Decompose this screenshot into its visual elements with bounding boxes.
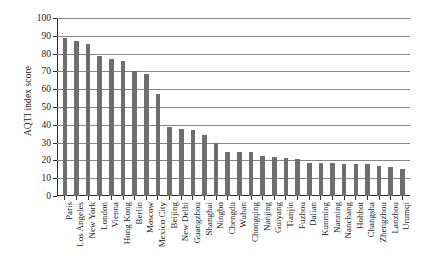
bar: [214, 143, 219, 196]
x-label-slot: Chongqing: [245, 202, 257, 276]
bar: [63, 38, 68, 196]
x-tick-mark: [379, 196, 380, 200]
x-label-slot: Mexico City: [152, 202, 164, 276]
bar-slot: [385, 18, 397, 196]
x-label-slot: Hong Kong: [117, 202, 129, 276]
x-tick-mark: [239, 196, 240, 200]
x-tick-mark: [297, 196, 298, 200]
bar: [109, 59, 114, 196]
bar-series: [57, 18, 410, 196]
x-tick-mark: [76, 196, 77, 200]
x-tick-slot: [397, 196, 409, 200]
x-tick-mark: [402, 196, 403, 200]
x-tick-slot: [269, 196, 281, 200]
bar-slot: [269, 18, 281, 196]
x-label-slot: Guangzhou: [187, 202, 199, 276]
x-tick-slot: [222, 196, 234, 200]
x-tick-mark: [99, 196, 100, 200]
x-label-slot: Kunming: [315, 202, 327, 276]
bar-slot: [210, 18, 222, 196]
x-label-slot: Moscow: [140, 202, 152, 276]
y-tick-label: 90: [42, 31, 52, 41]
x-tick-mark: [355, 196, 356, 200]
bar-slot: [222, 18, 234, 196]
bar-slot: [373, 18, 385, 196]
bar: [86, 44, 91, 196]
x-label-slot: Hohhot: [350, 202, 362, 276]
bar: [307, 163, 312, 196]
x-tick-slot: [140, 196, 152, 200]
x-label-slot: Fuzhou: [292, 202, 304, 276]
x-tick-mark: [157, 196, 158, 200]
bar: [342, 164, 347, 196]
x-tick-slot: [129, 196, 141, 200]
x-label-slot: Wuhan: [234, 202, 246, 276]
aqti-bar-chart: AQTI index score 0102030405060708090100 …: [0, 0, 428, 279]
bar-slot: [292, 18, 304, 196]
y-axis-title: AQTI index score: [23, 21, 33, 181]
bar: [179, 129, 184, 196]
x-tick-mark: [204, 196, 205, 200]
y-tick-label: 40: [42, 120, 52, 130]
x-tick-slot: [303, 196, 315, 200]
bar: [191, 130, 196, 196]
x-tick-slot: [327, 196, 339, 200]
x-label-slot: Vienna: [106, 202, 118, 276]
x-label-slot: Lanzhou: [385, 202, 397, 276]
x-label-slot: Tianjin: [280, 202, 292, 276]
x-tick-slot: [94, 196, 106, 200]
x-tick-slot: [210, 196, 222, 200]
x-label-slot: Changsha: [362, 202, 374, 276]
bar-slot: [280, 18, 292, 196]
x-tick-slot: [292, 196, 304, 200]
bar: [156, 94, 161, 196]
x-label-slot: Chengdu: [222, 202, 234, 276]
bar-slot: [164, 18, 176, 196]
x-tick-label: Urumqi: [402, 202, 410, 230]
x-tick-slot: [373, 196, 385, 200]
x-tick-mark: [332, 196, 333, 200]
y-tick-label: 30: [42, 138, 52, 148]
bar: [354, 164, 359, 196]
bar-slot: [362, 18, 374, 196]
x-tick-mark: [262, 196, 263, 200]
y-tick-label: 0: [46, 191, 51, 201]
x-label-slot: Paris: [59, 202, 71, 276]
bar: [167, 127, 172, 196]
x-label-slot: Ningbo: [210, 202, 222, 276]
bar: [74, 41, 79, 196]
bar-slot: [350, 18, 362, 196]
x-tick-mark: [344, 196, 345, 200]
bar: [330, 163, 335, 196]
bar: [132, 71, 137, 196]
x-tick-slot: [234, 196, 246, 200]
x-tick-slot: [362, 196, 374, 200]
x-label-slot: Nanning: [327, 202, 339, 276]
x-tick-mark: [123, 196, 124, 200]
x-tick-mark: [146, 196, 147, 200]
bar: [202, 135, 207, 196]
bar: [121, 61, 126, 196]
bar: [377, 166, 382, 196]
bar-slot: [82, 18, 94, 196]
bar-slot: [152, 18, 164, 196]
bar: [272, 157, 277, 196]
x-label-slot: Nanjing: [257, 202, 269, 276]
x-tick-mark: [111, 196, 112, 200]
bar-slot: [397, 18, 409, 196]
x-label-slot: Guiyang: [269, 202, 281, 276]
bar: [249, 152, 254, 196]
x-tick-mark: [274, 196, 275, 200]
x-tick-slot: [385, 196, 397, 200]
x-label-slot: Shanghai: [199, 202, 211, 276]
bar-slot: [199, 18, 211, 196]
x-tick-slot: [152, 196, 164, 200]
bar-slot: [245, 18, 257, 196]
bar: [237, 152, 242, 197]
x-tick-mark: [169, 196, 170, 200]
x-tick-mark: [309, 196, 310, 200]
x-label-slot: Berlin: [129, 202, 141, 276]
x-label-slot: New Delhi: [175, 202, 187, 276]
y-tick-label: 50: [42, 102, 52, 112]
x-tick-slot: [175, 196, 187, 200]
